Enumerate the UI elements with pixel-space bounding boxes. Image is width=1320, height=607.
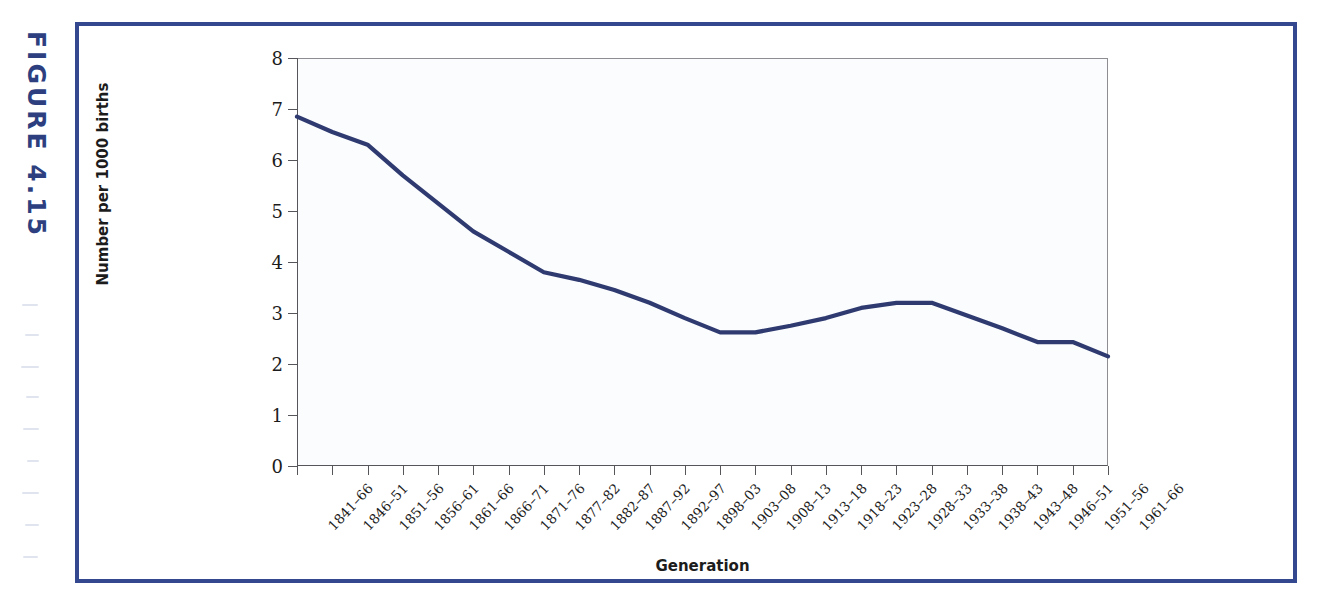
data-line-layer	[0, 0, 1320, 607]
data-line	[297, 117, 1108, 357]
chart-canvas: Number per 1000 births Generation 012345…	[0, 0, 1320, 607]
figure-page: FIGURE 4.15 Number per 1000 births Gener…	[0, 0, 1320, 607]
